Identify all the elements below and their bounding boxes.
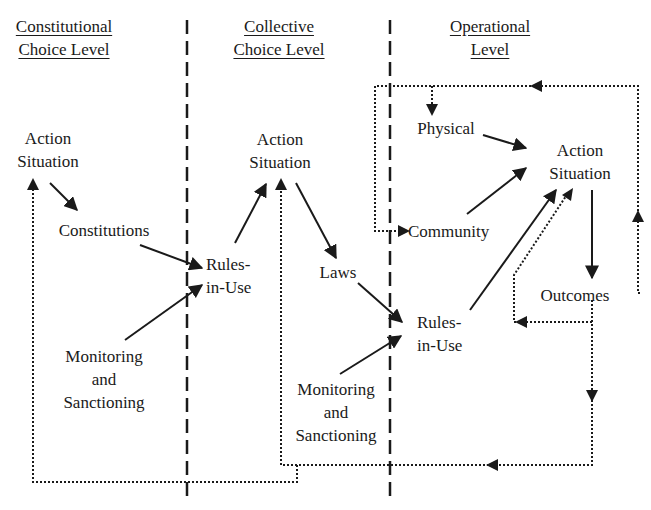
node-operational-action-situation: Action Situation	[535, 139, 625, 185]
node-operational-rules-in-use: Rules- in-Use	[417, 311, 483, 357]
node-outcomes: Outcomes	[530, 284, 620, 307]
node-collective-action-situation: Action Situation	[240, 128, 320, 174]
node-collective-monitoring-sanctioning: Monitoring and Sanctioning	[284, 378, 388, 447]
node-physical: Physical	[408, 117, 484, 140]
header-collective-choice-level: Collective Choice Level	[220, 15, 338, 61]
node-constitutional-action-situation: Action Situation	[8, 127, 88, 173]
node-constitutions: Constitutions	[48, 219, 160, 242]
diagram-canvas: Constitutional Choice Level Collective C…	[0, 0, 651, 510]
node-constitutional-monitoring-sanctioning: Monitoring and Sanctioning	[52, 345, 156, 414]
node-laws: Laws	[313, 261, 363, 284]
header-constitutional-choice-level: Constitutional Choice Level	[5, 15, 123, 61]
header-operational-level: Operational Level	[440, 15, 540, 61]
node-community: Community	[408, 220, 508, 243]
node-collective-rules-in-use: Rules- in-Use	[206, 253, 272, 299]
